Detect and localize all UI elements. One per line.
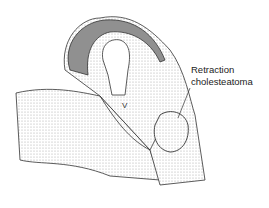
figure-canvas: V Retraction cholesteatoma: [0, 0, 269, 208]
cholesteatoma-sac: [154, 112, 188, 152]
ear-illustration: V: [0, 0, 269, 208]
structure-letter: V: [122, 101, 128, 110]
annotation-line-2: cholesteatoma: [191, 76, 253, 88]
annotation-line-1: Retraction: [191, 64, 253, 76]
annotation-label: Retraction cholesteatoma: [191, 64, 253, 88]
